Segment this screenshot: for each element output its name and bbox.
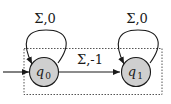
edge-label-q0-q1: Σ,-1 <box>77 52 103 67</box>
state-q1-subscript: 1 <box>137 71 143 81</box>
state-q0-label: q <box>36 64 44 79</box>
state-q1-label: q <box>128 64 136 79</box>
loop-label-q1: Σ,0 <box>126 11 148 26</box>
loop-label-q0: Σ,0 <box>34 11 56 26</box>
automaton-diagram: Σ,0 Σ,0 Σ,-1 q 0 q 1 <box>0 0 171 104</box>
state-q0-subscript: 0 <box>45 71 51 81</box>
